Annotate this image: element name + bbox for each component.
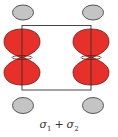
- atom-top-left: [13, 5, 34, 20]
- sigma-1-symbol: σ: [39, 118, 47, 131]
- orbital-diagram: [0, 0, 118, 137]
- sigma-2-subscript: 2: [74, 125, 78, 133]
- sigma-2-symbol: σ: [67, 118, 75, 131]
- atom-bottom-right: [83, 98, 104, 114]
- orbital-combination-label: σ1+σ2: [0, 118, 118, 133]
- atom-bottom-left: [13, 98, 34, 114]
- plus-operator: +: [51, 118, 66, 131]
- atom-top-right: [83, 5, 104, 20]
